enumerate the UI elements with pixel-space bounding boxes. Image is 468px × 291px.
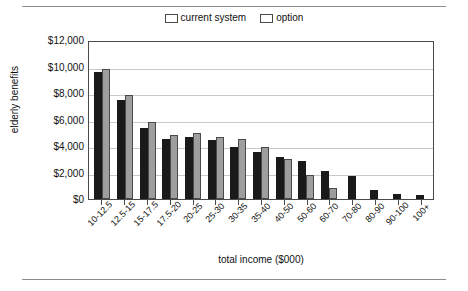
x-axis-tick-label: 35-40	[250, 202, 273, 225]
bar-current-system	[253, 152, 261, 199]
plot-area	[88, 41, 434, 200]
bar-option	[261, 147, 269, 199]
bar-option	[238, 139, 246, 199]
x-axis-tick-label: 25-30	[204, 202, 227, 225]
y-axis-tick-label: $8,000	[22, 89, 84, 99]
bar-current-system	[162, 139, 170, 199]
bar-option	[125, 95, 133, 199]
bar-group	[136, 42, 159, 199]
y-axis-tick-label: $4,000	[22, 142, 84, 152]
bar-groups	[89, 42, 433, 199]
y-axis-tick-label: $0	[22, 195, 84, 205]
bar-current-system	[230, 147, 238, 199]
bar-group	[182, 42, 205, 199]
bar-option	[284, 159, 292, 199]
y-axis-tick-label: $2,000	[22, 169, 84, 179]
bar-current-system	[185, 137, 193, 199]
bar-current-system	[321, 171, 329, 199]
bar-group	[408, 42, 431, 199]
bar-current-system	[298, 161, 306, 199]
x-axis-tick-cell: 40-50	[272, 206, 295, 252]
x-axis-tick-cell: 60-70	[318, 206, 341, 252]
x-axis-tick-cell: 15-17.5	[136, 206, 159, 252]
x-axis-tick-label: 60-70	[318, 202, 341, 225]
x-axis-tick-cell: 17.5-20	[158, 206, 181, 252]
chart-page: current system option elderly benefits $…	[0, 0, 468, 291]
x-axis-tick-label: 50-60	[295, 202, 318, 225]
bar-option	[148, 122, 156, 199]
bar-option	[216, 137, 224, 199]
bar-current-system	[208, 140, 216, 199]
x-axis-tick-cell: 50-60	[295, 206, 318, 252]
bar-option	[102, 69, 110, 200]
x-axis-tick-label: 100+	[411, 202, 432, 223]
x-axis-tick-cell: 25-30	[204, 206, 227, 252]
bar-current-system	[117, 100, 125, 199]
x-axis-tick-cell: 90-100	[386, 206, 409, 252]
bar-option	[193, 133, 201, 199]
bar-group	[295, 42, 318, 199]
y-axis-tick-labels: $12,000$10,000$8,000$6,000$4,000$2,000$0	[22, 0, 84, 291]
x-axis-tick-cell: 70-80	[341, 206, 364, 252]
bar-group	[272, 42, 295, 199]
x-axis-tick-cell: 20-25	[181, 206, 204, 252]
y-axis-tick-label: $6,000	[22, 116, 84, 126]
bar-current-system	[370, 190, 378, 199]
bar-current-system	[140, 128, 148, 199]
bar-group	[204, 42, 227, 199]
bar-group	[363, 42, 386, 199]
bar-group	[318, 42, 341, 199]
x-axis-tick-labels: 10-12.512.5-1515-17.517.5-2020-2525-3030…	[88, 206, 434, 252]
bar-group	[227, 42, 250, 199]
bar-group	[91, 42, 114, 199]
x-axis-tick-label: 40-50	[273, 202, 296, 225]
x-axis-tick-cell: 30-35	[227, 206, 250, 252]
bar-option	[306, 175, 314, 200]
x-axis-tick-label: 30-35	[227, 202, 250, 225]
x-axis-tick-label: 70-80	[341, 202, 364, 225]
bar-current-system	[393, 194, 401, 199]
x-axis-title: total income ($000)	[88, 254, 434, 265]
x-axis-tick-cell: 35-40	[250, 206, 273, 252]
bar-current-system	[348, 176, 356, 199]
bar-current-system	[416, 195, 424, 199]
bar-group	[250, 42, 273, 199]
bar-current-system	[94, 72, 102, 199]
x-axis-tick-label: 80-90	[364, 202, 387, 225]
bar-option	[170, 135, 178, 199]
bar-group	[340, 42, 363, 199]
bar-group	[114, 42, 137, 199]
x-axis-tick-cell: 80-90	[364, 206, 387, 252]
x-axis-tick-cell: 12.5-15	[113, 206, 136, 252]
bar-group	[159, 42, 182, 199]
y-axis-tick-label: $12,000	[22, 36, 84, 46]
bar-current-system	[276, 157, 284, 199]
x-axis-tick-label: 20-25	[182, 202, 205, 225]
y-axis-title: elderly benefits	[9, 50, 20, 150]
bar-option	[329, 188, 337, 199]
x-axis-tick-cell: 10-12.5	[90, 206, 113, 252]
bar-group	[386, 42, 409, 199]
x-axis-tick-cell: 100+	[409, 206, 432, 252]
y-axis-tick-label: $10,000	[22, 63, 84, 73]
plot-wrapper: elderly benefits $12,000$10,000$8,000$6,…	[0, 0, 468, 291]
